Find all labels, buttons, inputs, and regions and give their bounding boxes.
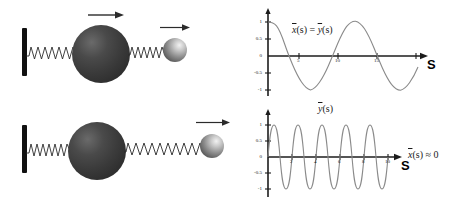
small-mass-arrow-icon — [196, 118, 230, 127]
chart-annotation: x(s) = y(s) — [292, 24, 333, 35]
x-tick-label: 5 — [297, 58, 300, 63]
annotation-arg: (s) — [296, 24, 307, 35]
x-tick-label: 2 — [290, 159, 293, 164]
small-mass-sphere — [163, 38, 187, 62]
annotation-equals: = — [307, 24, 318, 35]
x-tick-label: 15 — [374, 58, 379, 63]
y-tick-label: -0.5 — [246, 170, 262, 175]
y-tick-label: 1 — [250, 19, 262, 24]
title-arg: (s) — [322, 103, 333, 114]
y-axis-arrow-icon — [265, 109, 270, 115]
x-axis-label: S — [401, 158, 410, 173]
x-tick-label: 10 — [385, 159, 390, 164]
y-tick-label: 0.5 — [248, 36, 262, 41]
diagram-stiff-coupling — [0, 0, 240, 101]
diagram-soft-coupling — [0, 101, 240, 202]
y-tick-label: -0.5 — [246, 70, 262, 75]
chart-annotation: x(s) ≈ 0 — [408, 149, 439, 160]
chart-title: y(s) — [318, 103, 333, 114]
y-axis-arrow-icon — [265, 8, 270, 14]
x-tick-label: 8 — [362, 159, 365, 164]
annotation-arg: (s) — [412, 149, 423, 160]
large-mass-sphere — [68, 122, 126, 180]
physics-figure: 1 0.5 0 -0.5 -1 5 10 15 x(s) = y(s) S — [0, 0, 457, 202]
x-tick-label: 10 — [335, 58, 340, 63]
large-mass-sphere — [72, 25, 130, 83]
small-mass-sphere — [200, 134, 224, 158]
chart-fast-mode: 1 0.5 0 -0.5 -1 2 4 6 8 10 y(s) x(s) ≈ 0… — [240, 101, 457, 202]
y-tick-label: 0 — [250, 53, 262, 58]
y-tick-label: 1 — [250, 122, 262, 127]
annotation-arg: (s) — [322, 24, 333, 35]
x-axis-label: S — [427, 57, 436, 72]
chart-slow-mode: 1 0.5 0 -0.5 -1 5 10 15 x(s) = y(s) S — [240, 0, 457, 101]
y-tick-label: -1 — [248, 87, 262, 92]
x-tick-label: 4 — [314, 159, 317, 164]
small-mass-arrow-icon — [160, 23, 190, 32]
y-tick-label: 0.5 — [248, 138, 262, 143]
coupling-spring — [124, 137, 208, 159]
y-tick-label: -1 — [248, 186, 262, 191]
y-tick-label: 0 — [250, 154, 262, 159]
x-tick-label: 6 — [338, 159, 341, 164]
large-mass-arrow-icon — [88, 10, 124, 20]
annotation-relation: ≈ 0 — [423, 149, 439, 160]
